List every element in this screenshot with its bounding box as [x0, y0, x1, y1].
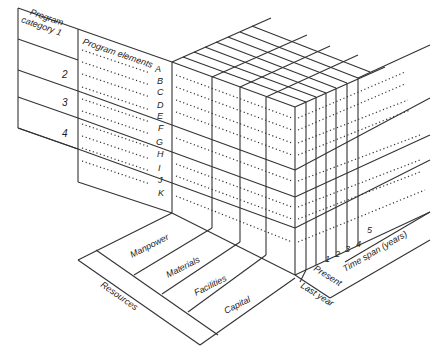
element-e: E — [157, 111, 164, 121]
time-year-3: 3 — [345, 244, 350, 254]
element-i: I — [158, 163, 161, 173]
time-year-5: 5 — [367, 225, 373, 235]
element-d: D — [157, 100, 164, 110]
program-panel — [18, 8, 172, 213]
element-g: G — [156, 137, 163, 147]
time-year-1: 1 — [325, 254, 330, 264]
header-program-elements: Program elements — [81, 36, 154, 70]
resource-manpower: Manpower — [128, 231, 171, 259]
element-h: H — [157, 149, 164, 159]
resource-capital: Capital — [222, 294, 252, 316]
category-3: 3 — [62, 97, 68, 108]
resources-axis-label: Resources — [99, 279, 140, 312]
element-a: A — [154, 64, 161, 74]
element-labels: A B C D E F G H I J K — [154, 64, 165, 198]
category-4: 4 — [62, 128, 68, 139]
time-span-axis-label: Time span (years) — [341, 229, 409, 274]
program-budget-diagram: Program category 1 Program elements 2 3 … — [0, 0, 438, 357]
time-present: Present — [312, 263, 344, 288]
time-last-year: Last year — [299, 280, 337, 309]
resources-panel — [78, 213, 295, 345]
element-f: F — [158, 123, 164, 133]
time-year-2: 2 — [334, 249, 340, 259]
element-j: J — [157, 175, 163, 185]
element-k: K — [158, 188, 165, 198]
resource-materials: Materials — [164, 254, 202, 280]
time-year-4: 4 — [356, 239, 361, 249]
category-2: 2 — [61, 69, 68, 80]
element-c: C — [157, 87, 164, 97]
resource-facilities: Facilities — [192, 273, 228, 298]
element-b: B — [157, 76, 163, 86]
